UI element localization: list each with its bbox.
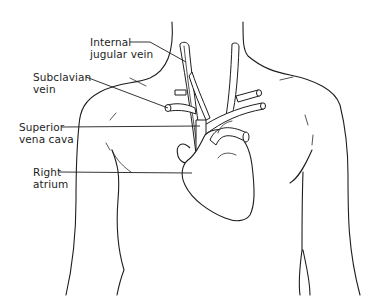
left-neck-shoulder-outline [66,22,172,295]
anatomy-diagram: Internal jugular vein Subclavian vein Su… [0,0,377,308]
right-small-branch [175,90,186,95]
left-arm-inner-outline [112,150,124,295]
label-internal-jugular-vein: Internal jugular vein [90,36,153,60]
chest-mark-left-2 [106,143,110,150]
label-subclavian-vein: Subclavian vein [33,71,91,95]
chest-mark-right [305,115,308,125]
label-superior-vena-cava: Superior vena cava [19,121,74,145]
aorta-cut-end [243,132,249,142]
left-subclavian-upper-end [257,90,262,96]
leader-superior-vena-cava [62,126,200,127]
left-arm-crease [112,150,131,172]
left-subclavian-lower-end [261,103,266,109]
leader-right-atrium [59,172,192,173]
right-arm-inner-outline [290,150,312,295]
clavicle-mark-right [280,77,293,80]
left-internal-jugular-vein [226,43,239,116]
chest-mark-left [110,113,116,120]
label-right-atrium: Right atrium [33,166,68,190]
chest-mark-right-2 [312,135,313,145]
heart [182,129,254,220]
torso-illustration [0,0,377,308]
